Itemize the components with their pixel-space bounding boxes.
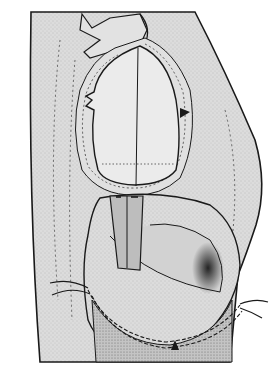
thread-ends-right	[240, 300, 268, 318]
sewing-illustration	[0, 0, 274, 383]
pocket-shadow	[192, 242, 224, 294]
